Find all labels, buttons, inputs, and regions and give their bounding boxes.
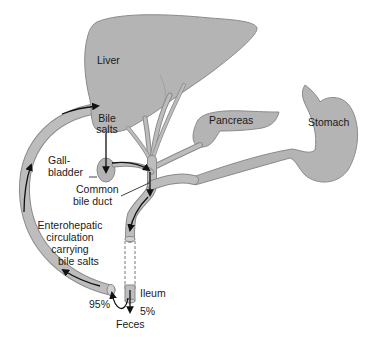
label-enterohepatic-3: carrying (34, 243, 106, 255)
label-gallbladder-1: Gall- (48, 154, 70, 166)
label-enterohepatic-1: Enterohepatic (34, 219, 106, 231)
label-pancreas: Pancreas (209, 114, 253, 126)
label-liver: Liver (97, 54, 120, 66)
label-feces: Feces (116, 318, 145, 330)
label-gallbladder-2: bladder (48, 166, 83, 178)
label-5-percent: 5% (140, 305, 155, 317)
label-95-percent: 95% (89, 298, 110, 310)
intestine-dashed-segment (125, 241, 135, 290)
label-enterohepatic-2: circulation (34, 231, 106, 243)
label-common-bile-duct-2: bile duct (73, 195, 112, 207)
pancreatic-duct (152, 145, 200, 168)
label-ileum: Ileum (140, 287, 166, 299)
label-stomach: Stomach (308, 116, 349, 128)
enterohepatic-diagram: Liver Bile salts Pancreas Stomach Gall- … (0, 0, 370, 339)
label-common-bile-duct-1: Common (76, 183, 119, 195)
label-bile-salts-2: salts (93, 123, 121, 135)
label-enterohepatic-4: bile salts (58, 255, 99, 267)
common-bile-duct-tube (125, 160, 194, 242)
